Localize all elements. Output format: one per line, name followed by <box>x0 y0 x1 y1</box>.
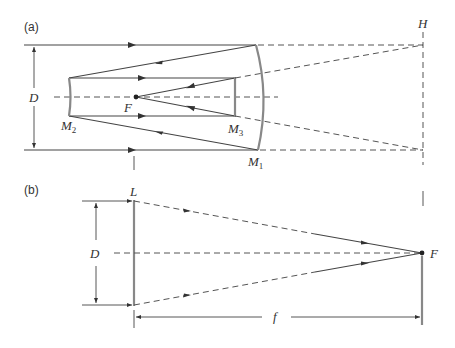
aperture-label-b: D <box>89 246 100 261</box>
panel-b: (b) D L F <box>24 183 439 328</box>
panel-a: (a) D <box>24 16 428 206</box>
mirror-m1-label: M1 <box>247 154 263 171</box>
focus-label-b: F <box>429 246 439 261</box>
focal-length-label: f <box>273 309 279 324</box>
aperture-dimension-b: D <box>89 203 100 303</box>
rays-m2-to-m3 <box>69 75 235 119</box>
mirror-m3-label: M3 <box>227 121 244 138</box>
panel-b-label: (b) <box>24 183 39 197</box>
optics-diagram: (a) D <box>0 0 455 348</box>
mirror-m2-label: M2 <box>60 118 76 135</box>
focus-point-b <box>420 251 425 256</box>
focus-point-a <box>134 95 139 100</box>
aperture-label-a: D <box>28 90 39 105</box>
focal-length-dimension: f <box>134 256 422 328</box>
aperture-dimension-a: D <box>28 47 39 148</box>
plane-h-label: H <box>417 16 428 31</box>
focus-label-a: F <box>123 100 133 115</box>
lens-label: L <box>129 184 137 199</box>
panel-a-label: (a) <box>24 20 39 34</box>
